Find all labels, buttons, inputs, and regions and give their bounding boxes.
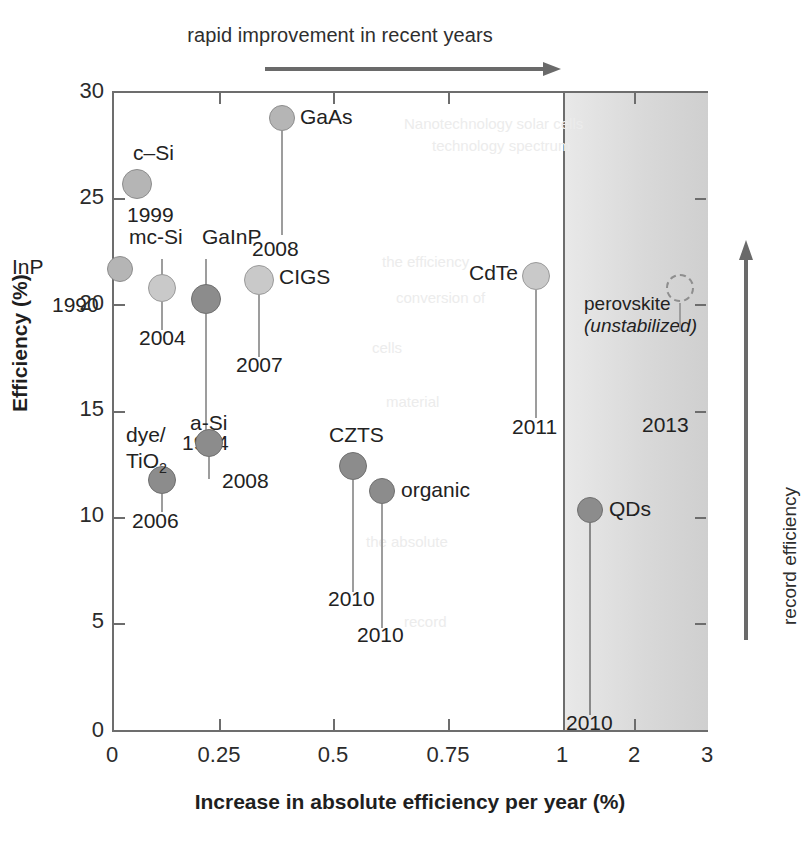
point-mc-si[interactable] [148, 274, 176, 302]
year-a-si: 2008 [222, 469, 269, 493]
label-gaas: GaAs [300, 105, 353, 129]
ghost-text: record [404, 613, 447, 630]
ylabel-15: 15 [58, 396, 104, 422]
xlabel-0.75: 0.75 [427, 742, 470, 768]
ytick-right-25 [695, 198, 706, 200]
label-cigs: CIGS [279, 265, 330, 289]
leader-line-a-si [208, 457, 210, 479]
leader-line-czts [352, 480, 354, 592]
ylabel-25: 25 [58, 184, 104, 210]
point-cdte[interactable] [522, 262, 550, 290]
ylabel-5: 5 [58, 608, 104, 634]
ytick-right-10 [695, 517, 706, 519]
leader-line-qds [589, 523, 591, 715]
ylabel-30: 30 [58, 78, 104, 104]
xlabel-2: 2 [628, 742, 640, 768]
year-qds: 2010 [566, 711, 613, 735]
ghost-text: technology spectrum [432, 137, 570, 154]
xlabel-0.25: 0.25 [198, 742, 241, 768]
label-gainp: GaInP [202, 225, 262, 249]
point-organic[interactable] [369, 478, 395, 504]
leader-line-organic [381, 504, 383, 628]
top-annotation-text: rapid improvement in recent years [0, 24, 680, 47]
y-axis-title: Efficiency (%) [8, 274, 32, 412]
label-czts: CZTS [329, 423, 384, 447]
shaded-region [563, 93, 708, 730]
xtick-0.25 [219, 719, 221, 730]
ghost-text: cells [372, 339, 402, 356]
ytick-20 [114, 304, 125, 306]
xtick-0.5 [333, 719, 335, 730]
leader-line-cigs [258, 295, 260, 357]
solar-cell-efficiency-figure: rapid improvement in recent years Nanote… [0, 0, 808, 845]
label-organic: organic [401, 478, 470, 502]
record-efficiency-label: record efficiency [779, 487, 801, 625]
ghost-text: the efficiency [382, 253, 469, 270]
label-2013: 2013 [642, 413, 689, 437]
point-czts[interactable] [339, 452, 367, 480]
xtick-0.75 [448, 719, 450, 730]
xtick-top-0.5 [333, 93, 335, 104]
xtick-top-0.75 [448, 93, 450, 104]
ylabel-0: 0 [58, 717, 104, 743]
axis-break-divider [563, 93, 565, 730]
point-gainp[interactable] [191, 284, 221, 314]
xlabel-0: 0 [106, 742, 118, 768]
xlabel-3: 3 [701, 742, 713, 768]
ghost-text: the absolute [366, 533, 448, 550]
point-gaas[interactable] [269, 105, 295, 131]
label-dye-tio2: TiO2 [126, 449, 167, 476]
label-cdte: CdTe [469, 261, 518, 285]
ylabel-10: 10 [58, 502, 104, 528]
point-inp[interactable] [107, 256, 133, 282]
xtick-top-2 [634, 93, 636, 104]
year-czts: 2010 [328, 587, 375, 611]
record-efficiency-arrow-icon [738, 240, 754, 640]
point-qds[interactable] [577, 497, 603, 523]
year-mc-si: 2004 [139, 326, 186, 350]
xlabel-1: 1 [556, 742, 568, 768]
label-qds: QDs [609, 497, 651, 521]
ghost-text: Nanotechnology solar cells [404, 115, 583, 132]
x-axis-title: Increase in absolute efficiency per year… [112, 790, 708, 814]
year-dye: 2006 [132, 509, 179, 533]
leader-line-cdte [535, 290, 537, 418]
ytick-10 [114, 517, 125, 519]
leader-line-gainp [205, 259, 207, 287]
point-c-si[interactable] [122, 169, 152, 199]
label-a-si: a-Si [190, 411, 227, 435]
label-c-si: c–Si [133, 141, 174, 165]
year-cigs: 2007 [236, 353, 283, 377]
year-organic: 2010 [357, 623, 404, 647]
ytick-right-15 [695, 411, 706, 413]
leader-line-gaas [281, 131, 283, 235]
plot-area: Nanotechnology solar cells technology sp… [112, 91, 708, 732]
xlabel-0.5: 0.5 [318, 742, 349, 768]
label-perovskite: perovskite [584, 293, 671, 315]
year-cdte: 2011 [512, 415, 557, 439]
ytick-15 [114, 411, 125, 413]
ytick-right-5 [695, 623, 706, 625]
label-mc-si: mc-Si [129, 225, 183, 249]
xtick-2 [634, 719, 636, 730]
ytick-5 [114, 623, 125, 625]
ghost-text: conversion of [396, 289, 485, 306]
year-c-si: 1999 [127, 203, 174, 227]
ylabel-20: 20 [58, 290, 104, 316]
label-dye: dye/ [126, 423, 166, 447]
ytick-25 [114, 198, 125, 200]
rapid-improvement-arrow-icon [265, 62, 561, 76]
ytick-right-20 [695, 304, 706, 306]
xtick-top-0.25 [219, 93, 221, 104]
leader-line-perovskite [679, 303, 681, 331]
point-cigs[interactable] [244, 265, 274, 295]
ghost-text: material [386, 393, 439, 410]
